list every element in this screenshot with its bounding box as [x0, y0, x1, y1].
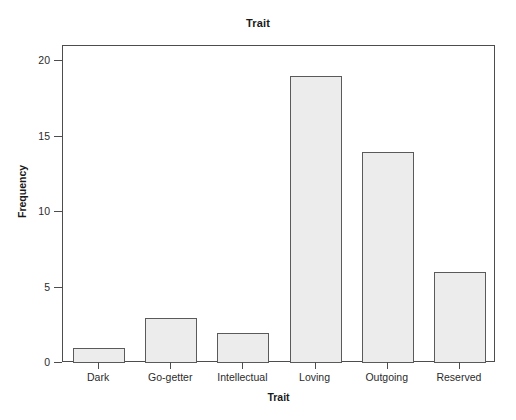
- x-axis-tick-label: Loving: [299, 371, 330, 383]
- bar-go-getter: [145, 318, 197, 363]
- bar-dark: [73, 348, 125, 363]
- x-axis-tick-label: Dark: [87, 371, 109, 383]
- x-axis-tick-mark: [170, 362, 171, 369]
- y-axis-tick-mark: [54, 211, 62, 212]
- x-axis-tick-mark: [387, 362, 388, 369]
- page-title: Trait: [0, 17, 516, 29]
- y-axis-tick-mark: [54, 362, 62, 363]
- y-axis-tick-mark: [54, 60, 62, 61]
- x-axis-tick-label: Reserved: [436, 371, 481, 383]
- x-axis-tick-mark: [315, 362, 316, 369]
- y-axis-tick-mark: [54, 136, 62, 137]
- y-axis-tick-label: 0: [8, 356, 50, 368]
- y-axis-tick-label: 10: [8, 205, 50, 217]
- bar-loving: [290, 76, 342, 363]
- x-axis-tick-mark: [459, 362, 460, 369]
- x-axis-label: Trait: [62, 391, 495, 403]
- bars-layer: [63, 46, 496, 363]
- y-axis-tick-mark: [54, 287, 62, 288]
- x-axis-tick-mark: [242, 362, 243, 369]
- y-axis-tick-label: 15: [8, 130, 50, 142]
- bar-outgoing: [362, 152, 414, 363]
- x-axis-tick-label: Go-getter: [148, 371, 192, 383]
- plot-area: [62, 45, 495, 362]
- x-axis-tick-label: Intellectual: [217, 371, 267, 383]
- y-axis-tick-label: 20: [8, 54, 50, 66]
- y-axis-tick-label: 5: [8, 281, 50, 293]
- x-axis-tick-mark: [98, 362, 99, 369]
- x-axis-tick-label: Outgoing: [365, 371, 408, 383]
- bar-intellectual: [217, 333, 269, 363]
- bar-reserved: [434, 272, 486, 363]
- bar-chart-figure: Trait Frequency Trait 05101520DarkGo-get…: [0, 0, 516, 420]
